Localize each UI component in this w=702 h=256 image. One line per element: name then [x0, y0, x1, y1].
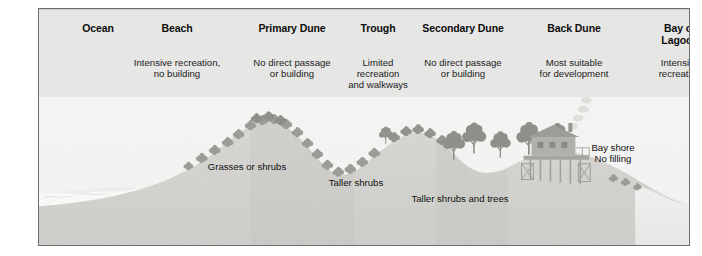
figure-plate: Ocean Beach Primary Dune Trough Secondar… [38, 8, 690, 246]
caption-bay-shore-no-filling: Bay shore No filling [563, 142, 663, 165]
zone-desc-beach: Intensive recreation, no building [117, 57, 237, 79]
caption-taller-shrubs: Taller shrubs [301, 177, 411, 188]
zone-label-beach: Beach [117, 23, 237, 35]
zone-desc-back-dune: Most suitable for development [509, 57, 639, 79]
dune-profile-figure: Ocean Beach Primary Dune Trough Secondar… [0, 0, 702, 256]
zone-header-band: Ocean Beach Primary Dune Trough Secondar… [39, 9, 689, 97]
zone-label-back-dune: Back Dune [509, 23, 639, 35]
zone-desc-bay-or-lagoon: Intensive recreation [633, 57, 690, 79]
caption-taller-shrubs-and-trees: Taller shrubs and trees [385, 193, 535, 204]
zone-label-bay-or-lagoon: Bay or Lagoon [633, 23, 690, 46]
header-divider [39, 9, 689, 10]
caption-grasses-or-shrubs: Grasses or shrubs [177, 161, 317, 172]
